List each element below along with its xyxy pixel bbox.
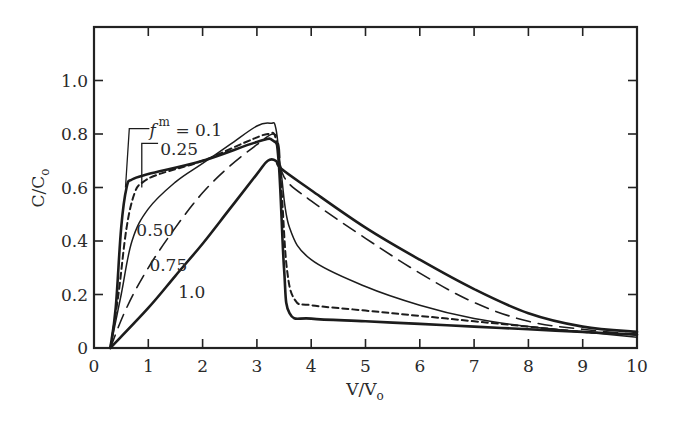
series-label: 0.75 xyxy=(149,255,187,275)
y-axis-ticks: 00.20.40.60.81.0 xyxy=(61,71,637,359)
series-label: 0.25 xyxy=(160,139,198,159)
leader-line-0.1 xyxy=(125,129,149,188)
y-tick-label: 0 xyxy=(77,338,88,358)
chart: 012345678910 00.20.40.60.81.0 fm= 0.10.2… xyxy=(0,0,680,423)
series-annotations: fm= 0.10.250.500.751.0 xyxy=(125,115,222,302)
x-tick-label: 10 xyxy=(626,356,648,376)
plot-border xyxy=(94,27,637,348)
x-tick-label: 6 xyxy=(414,356,425,376)
series-line-1 xyxy=(110,133,637,348)
x-tick-label: 2 xyxy=(197,356,208,376)
y-tick-label: 0.6 xyxy=(61,178,88,198)
x-tick-label: 5 xyxy=(360,356,371,376)
x-tick-label: 7 xyxy=(469,356,480,376)
x-tick-label: 0 xyxy=(89,356,100,376)
series-line-4 xyxy=(110,159,637,348)
x-tick-label: 1 xyxy=(143,356,154,376)
plot-frame xyxy=(94,27,637,348)
x-tick-label: 8 xyxy=(523,356,534,376)
parameter-superscript: m xyxy=(158,115,170,129)
parameter-symbol: f xyxy=(147,120,158,140)
x-axis-title: V/Vo xyxy=(345,379,384,403)
series-label: = 0.1 xyxy=(175,120,222,140)
x-tick-label: 9 xyxy=(577,356,588,376)
y-tick-label: 0.8 xyxy=(61,124,88,144)
y-tick-label: 0.2 xyxy=(61,285,88,305)
series-label: 1.0 xyxy=(178,282,205,302)
y-axis-title: C/Co xyxy=(28,169,52,208)
y-tick-label: 1.0 xyxy=(61,71,88,91)
x-tick-label: 4 xyxy=(306,356,317,376)
x-tick-label: 3 xyxy=(251,356,262,376)
y-tick-label: 0.4 xyxy=(61,231,88,251)
series-label: 0.50 xyxy=(136,220,174,240)
